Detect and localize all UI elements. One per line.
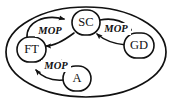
node-ft-label: FT bbox=[24, 42, 39, 56]
node-sc-label: SC bbox=[78, 15, 93, 29]
edge-label-top-left: MOP bbox=[37, 25, 62, 36]
diagram-canvas: SC FT GD A MOP MOP MOP bbox=[0, 0, 173, 105]
edge-label-bottom-left: MOP bbox=[43, 60, 68, 71]
node-gd-label: GD bbox=[130, 38, 148, 52]
node-a-label: A bbox=[72, 71, 81, 85]
edge-label-top-right: MOP bbox=[103, 23, 128, 34]
